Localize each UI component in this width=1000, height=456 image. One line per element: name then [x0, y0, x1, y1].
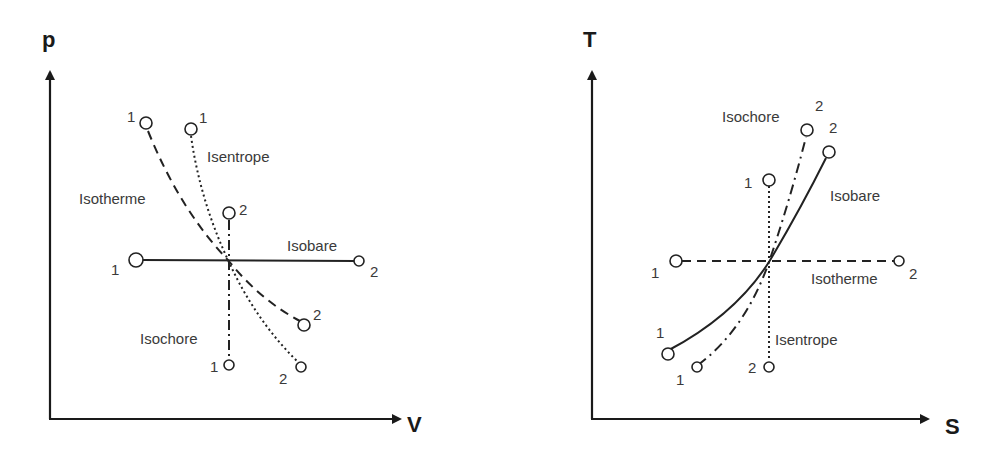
pv-isochore-point-1: [224, 360, 234, 370]
ts-isobare-point-1: [662, 348, 674, 360]
ts-label-isochore-1: 1: [676, 371, 684, 388]
ts-isotherme-point-1: [670, 255, 682, 267]
ts-isentrope-label: Isentrope: [775, 331, 838, 348]
pv-label-isobare-1: 1: [111, 261, 119, 278]
thermo-diagrams: p V 1 1 2 1 2 2 1 2 Isentrope Isotherme …: [0, 0, 1000, 456]
pv-diagram: p V 1 1 2 1 2 2 1 2 Isentrope Isotherme …: [42, 27, 422, 437]
pv-isotherme-point-2: [298, 319, 310, 331]
pv-isobare-point-2: [354, 256, 364, 266]
ts-diagram: T S 2 2 1 1 2 1 1 2 Isochore Isobare Iso…: [583, 27, 960, 439]
pv-isochore-label: Isochore: [140, 330, 198, 347]
pv-isentrope-point-1: [185, 123, 197, 135]
pv-isotherme-point-1: [140, 117, 152, 129]
pv-isentrope-label: Isentrope: [207, 148, 270, 165]
ts-label-isobare-2: 2: [829, 119, 837, 136]
pv-label-isotherme-1: 1: [127, 108, 135, 125]
pv-label-isochore-2: 2: [239, 201, 247, 218]
pv-isentrope-point-2: [296, 362, 306, 372]
s-axis-label: S: [945, 414, 960, 439]
ts-isentrope-point-1: [763, 174, 775, 186]
ts-isobare-point-2: [823, 146, 835, 158]
ts-label-isochore-2: 2: [815, 97, 823, 114]
ts-isochore-point-2: [801, 124, 813, 136]
v-axis-label: V: [407, 412, 422, 437]
pv-isochore-point-2: [223, 207, 235, 219]
ts-label-isobare-1: 1: [656, 324, 664, 341]
ts-isotherme-label: Isotherme: [811, 270, 878, 287]
pv-label-isentrope-2: 2: [279, 370, 287, 387]
ts-isotherme-point-2: [894, 256, 904, 266]
ts-label-isentrope-2: 2: [748, 359, 756, 376]
p-axis-label: p: [42, 27, 55, 52]
pv-isobare-label: Isobare: [287, 237, 337, 254]
pv-label-isentrope-1: 1: [199, 109, 207, 126]
ts-isochore-point-1: [692, 362, 702, 372]
pv-isobare-point-1: [129, 253, 143, 267]
pv-isotherme-label: Isotherme: [79, 190, 146, 207]
ts-isobare-label: Isobare: [830, 187, 880, 204]
pv-isentrope-curve: [191, 136, 298, 362]
pv-label-isochore-1: 1: [210, 358, 218, 375]
ts-isentrope-point-2: [764, 362, 774, 372]
pv-label-isotherme-2: 2: [313, 306, 321, 323]
ts-isochore-label: Isochore: [722, 108, 780, 125]
pv-label-isobare-2: 2: [370, 263, 378, 280]
ts-label-isentrope-1: 1: [744, 174, 752, 191]
ts-label-isotherme-2: 2: [909, 265, 917, 282]
ts-label-isotherme-1: 1: [651, 264, 659, 281]
t-axis-label: T: [583, 27, 597, 52]
pv-isobare-line: [141, 260, 356, 261]
